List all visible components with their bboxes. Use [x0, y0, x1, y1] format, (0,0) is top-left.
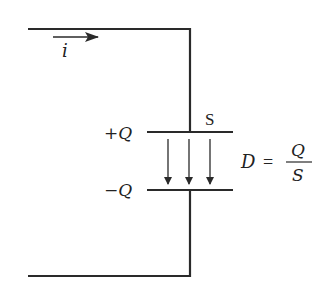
equation-numerator: Q — [291, 140, 305, 160]
capacitor-diagram: i S +Q −Q D = Q S — [0, 0, 332, 295]
equation-lhs: D — [240, 151, 256, 172]
bottom-plate-label: −Q — [104, 180, 132, 200]
equation-equals: = — [263, 152, 273, 172]
top-wire — [28, 29, 190, 132]
top-plate-label: +Q — [104, 123, 132, 143]
bottom-wire — [28, 190, 190, 276]
current-label: i — [62, 40, 68, 61]
equation-denominator: S — [292, 165, 304, 185]
area-label: S — [205, 110, 214, 129]
